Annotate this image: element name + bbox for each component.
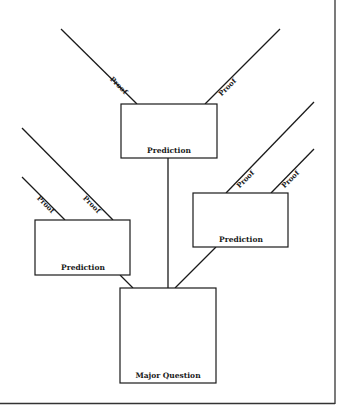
prediction-label-right: Prediction [219,235,263,244]
prediction-diagram: Prediction Prediction Prediction Major Q… [0,0,343,409]
connector-left [120,275,133,288]
proof-label-left-outer: Proof [81,194,103,216]
major-question-label: Major Question [135,371,201,380]
major-question-box [120,288,216,383]
proof-label-top-right: Proof [217,76,239,98]
proof-label-left-inner: Proof [35,194,57,216]
proof-label-right-inner: Proof [280,168,302,190]
connector-right [175,247,216,288]
prediction-label-left: Prediction [61,263,105,272]
prediction-label-top: Prediction [147,146,191,155]
proof-label-right-outer: Proof [235,168,257,190]
proof-line-top-right [205,29,280,104]
